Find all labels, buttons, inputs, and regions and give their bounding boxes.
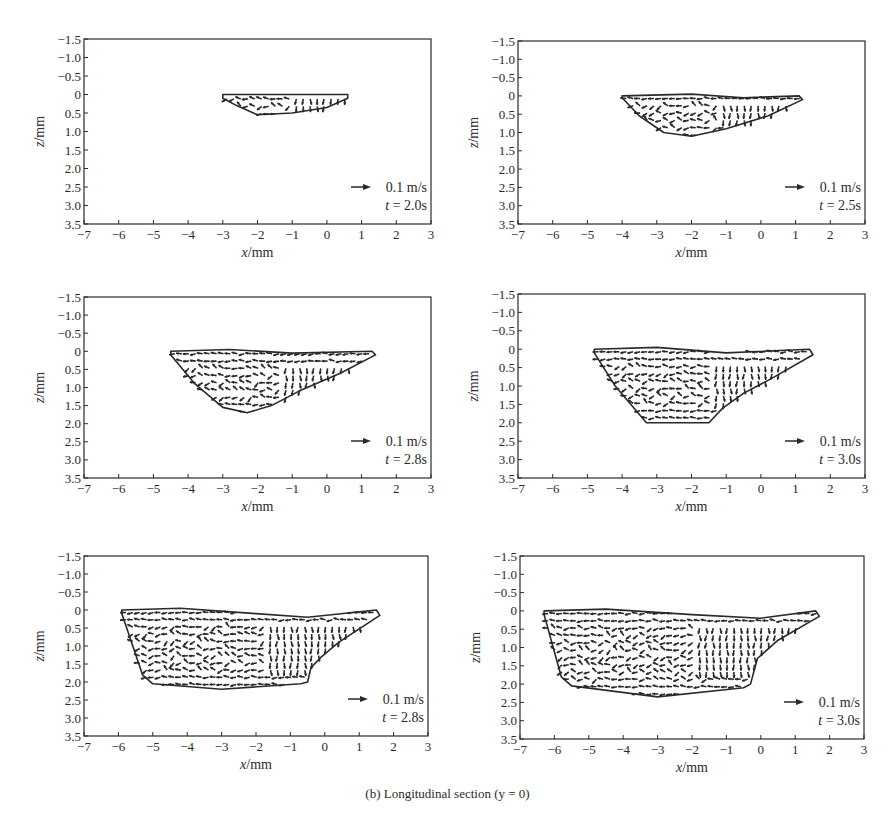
panel-t2-8s-lower: −1.5−1.0−0.500.51.01.52.02.53.03.5−7−6−5… — [32, 549, 431, 773]
y-tick-label: −1.0 — [57, 567, 81, 582]
y-tick-label: 0.5 — [501, 622, 517, 637]
x-tick-label: −3 — [650, 481, 664, 496]
x-tick-label: −3 — [216, 481, 230, 496]
x-tick-label: −2 — [251, 481, 265, 496]
x-tick-label: −6 — [546, 481, 560, 496]
x-tick-label: 1 — [358, 481, 365, 496]
y-tick-label: 1.0 — [499, 125, 515, 140]
x-tick-label: −3 — [650, 227, 664, 242]
plot-frame — [518, 41, 865, 224]
y-tick-label: 0 — [511, 603, 518, 618]
y-tick-label: −1.5 — [57, 549, 81, 564]
x-axis-label: x/mm — [241, 245, 274, 260]
x-tick-label: −7 — [511, 227, 525, 242]
x-axis-label: x/mm — [675, 760, 708, 775]
x-tick-label: −4 — [615, 481, 629, 496]
x-tick-label: −2 — [251, 227, 265, 242]
y-tick-label: 1.0 — [499, 379, 515, 394]
x-tick-label: −6 — [111, 739, 125, 754]
y-tick-label: 2.0 — [65, 161, 81, 176]
x-tick-label: 0 — [324, 481, 331, 496]
x-tick-label: −5 — [146, 739, 160, 754]
y-tick-label: 0 — [509, 342, 516, 357]
y-tick-label: 2.0 — [65, 416, 81, 431]
y-tick-label: −1.0 — [493, 567, 517, 582]
panel-t2-0s: −1.5−1.0−0.500.51.01.52.02.53.03.5−7−6−5… — [32, 32, 434, 261]
x-tick-label: −7 — [77, 227, 91, 242]
x-tick-label: −7 — [513, 742, 527, 757]
x-tick-label: −4 — [615, 227, 629, 242]
y-tick-label: 0.5 — [65, 621, 81, 636]
x-tick-label: −1 — [719, 742, 733, 757]
x-tick-label: −5 — [146, 227, 160, 242]
x-tick-label: 2 — [393, 481, 400, 496]
velocity-scale-label: 0.1 m/s — [820, 180, 861, 195]
y-tick-label: 0 — [75, 87, 82, 102]
x-tick-label: −5 — [580, 227, 594, 242]
y-tick-label: 1.0 — [65, 380, 81, 395]
y-tick-label: 0.5 — [65, 362, 81, 377]
x-axis-label: x/mm — [675, 245, 708, 260]
y-tick-label: −1.0 — [491, 52, 515, 67]
x-tick-label: 1 — [792, 227, 799, 242]
y-tick-label: 0.5 — [65, 106, 81, 121]
plot-frame — [84, 297, 431, 478]
x-tick-label: −7 — [77, 481, 91, 496]
velocity-vectors — [120, 610, 374, 687]
y-tick-label: 3.0 — [65, 452, 81, 467]
plot-frame — [84, 556, 428, 736]
x-tick-label: 2 — [827, 227, 834, 242]
y-tick-label: 2.5 — [65, 434, 81, 449]
x-tick-label: 3 — [862, 481, 869, 496]
y-tick-label: −1.5 — [491, 287, 515, 302]
x-tick-label: −6 — [547, 742, 561, 757]
x-tick-label: 0 — [758, 742, 765, 757]
x-axis-label: x/mm — [239, 757, 272, 772]
velocity-vectors — [620, 96, 800, 137]
x-tick-label: 2 — [827, 481, 834, 496]
weld-pool-boundary — [171, 350, 376, 413]
y-axis-label: z/mm — [466, 117, 481, 149]
x-tick-label: −2 — [685, 742, 699, 757]
time-label: t = 3.0s — [819, 452, 861, 467]
figure-canvas: −1.5−1.0−0.500.51.01.52.02.53.03.5−7−6−5… — [0, 0, 895, 835]
x-tick-label: −4 — [180, 739, 194, 754]
velocity-scale-label: 0.1 m/s — [819, 695, 860, 710]
y-tick-label: −1.5 — [491, 34, 515, 49]
x-tick-label: −7 — [511, 481, 525, 496]
y-tick-label: 2.5 — [65, 693, 81, 708]
x-tick-label: 3 — [425, 739, 432, 754]
x-tick-label: −1 — [283, 739, 297, 754]
time-label: t = 2.8s — [382, 710, 424, 725]
velocity-scale-label: 0.1 m/s — [386, 434, 427, 449]
x-tick-label: −5 — [582, 742, 596, 757]
velocity-vectors — [542, 611, 816, 696]
y-tick-label: 1.5 — [65, 657, 81, 672]
velocity-scale-label: 0.1 m/s — [820, 434, 861, 449]
y-tick-label: 2.5 — [501, 695, 517, 710]
y-tick-label: −1.0 — [491, 305, 515, 320]
x-tick-label: 0 — [322, 739, 329, 754]
time-label: t = 2.0s — [385, 198, 427, 213]
velocity-vectors — [593, 349, 807, 420]
y-tick-label: −1.0 — [57, 50, 81, 65]
y-tick-label: 2.5 — [499, 434, 515, 449]
x-tick-label: 2 — [390, 739, 397, 754]
x-tick-label: 0 — [758, 227, 765, 242]
y-tick-label: 0.5 — [499, 107, 515, 122]
y-axis-label: z/mm — [466, 370, 481, 402]
x-tick-label: −5 — [146, 481, 160, 496]
y-tick-label: 1.5 — [501, 658, 517, 673]
y-tick-label: −0.5 — [491, 70, 515, 85]
x-tick-label: −1 — [719, 481, 733, 496]
x-tick-label: 3 — [428, 481, 435, 496]
x-tick-label: −3 — [651, 742, 665, 757]
y-axis-label: z/mm — [468, 632, 483, 664]
x-tick-label: 1 — [356, 739, 363, 754]
x-tick-label: 2 — [826, 742, 833, 757]
figure-caption: (b) Longitudinal section (y = 0) — [0, 786, 895, 802]
y-tick-label: 1.0 — [65, 639, 81, 654]
y-tick-label: 2.0 — [501, 677, 517, 692]
y-tick-label: −0.5 — [493, 585, 517, 600]
x-tick-label: 1 — [358, 227, 365, 242]
